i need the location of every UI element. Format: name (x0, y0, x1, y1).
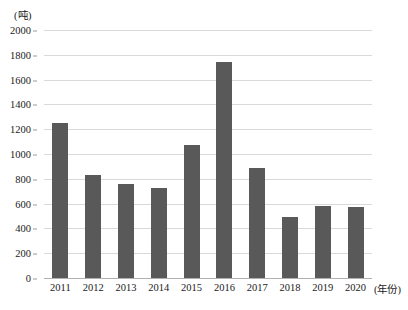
bar (52, 123, 68, 278)
y-tick-mark (33, 80, 37, 81)
bar (315, 206, 331, 278)
bar (118, 184, 134, 278)
y-tick-value: 400 (15, 223, 31, 234)
y-tick-value: 1800 (10, 49, 31, 60)
x-axis-tick-labels: 2011201220132014201520162017201820192020 (44, 282, 372, 298)
bar (184, 145, 200, 278)
y-tick-value: 1200 (10, 124, 31, 135)
x-tick-label: 2011 (50, 282, 71, 293)
bar (85, 175, 101, 278)
x-tick-label: 2020 (345, 282, 366, 293)
y-tick-mark (33, 55, 37, 56)
x-tick-label: 2017 (247, 282, 268, 293)
y-tick-mark (33, 31, 37, 32)
y-tick-label: 1400 (10, 99, 37, 110)
y-tick-value: 1000 (10, 149, 31, 160)
y-tick-mark (33, 105, 37, 106)
x-tick-label: 2015 (181, 282, 202, 293)
y-tick-value: 200 (15, 248, 31, 259)
y-tick-label: 1200 (10, 124, 37, 135)
x-tick-label: 2019 (312, 282, 333, 293)
bar-chart-figure: (吨) 020040060080010001200140016001800200… (0, 0, 408, 310)
y-tick-label: 1000 (10, 149, 37, 160)
y-tick-value: 2000 (10, 25, 31, 36)
y-axis-unit-label: (吨) (14, 7, 32, 22)
y-tick-label: 1800 (10, 49, 37, 60)
y-tick-mark (33, 155, 37, 156)
y-tick-mark (33, 279, 37, 280)
x-tick-label: 2016 (214, 282, 235, 293)
y-tick-value: 1400 (10, 99, 31, 110)
y-tick-value: 0 (26, 273, 31, 284)
y-tick-label: 400 (15, 223, 37, 234)
y-axis-tick-labels: 0200400600800100012001400160018002000 (0, 30, 40, 278)
y-tick-mark (33, 229, 37, 230)
y-tick-label: 200 (15, 248, 37, 259)
y-tick-value: 600 (15, 198, 31, 209)
y-tick-mark (33, 254, 37, 255)
bar (216, 62, 232, 278)
y-tick-label: 0 (26, 273, 37, 284)
y-tick-label: 2000 (10, 25, 37, 36)
gridline (44, 278, 372, 279)
x-tick-label: 2018 (280, 282, 301, 293)
x-tick-label: 2012 (83, 282, 104, 293)
y-tick-mark (33, 130, 37, 131)
x-axis-unit-label: (年份) (374, 281, 401, 296)
bar (282, 217, 298, 278)
x-tick-label: 2014 (148, 282, 169, 293)
y-tick-mark (33, 179, 37, 180)
y-tick-value: 800 (15, 173, 31, 184)
y-tick-mark (33, 204, 37, 205)
bars-layer (44, 30, 372, 278)
bar (151, 188, 167, 278)
bar (348, 207, 364, 278)
y-tick-value: 1600 (10, 74, 31, 85)
y-tick-label: 800 (15, 173, 37, 184)
x-tick-label: 2013 (116, 282, 137, 293)
y-tick-label: 1600 (10, 74, 37, 85)
bar (249, 168, 265, 278)
y-tick-label: 600 (15, 198, 37, 209)
